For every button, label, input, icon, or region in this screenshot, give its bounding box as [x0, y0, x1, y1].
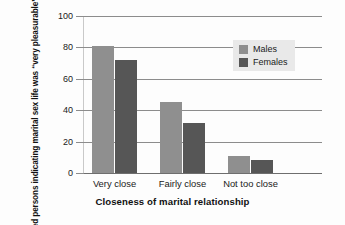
- females-swatch-icon: [239, 58, 248, 67]
- y-tick-0: [76, 173, 84, 174]
- legend-label-females: Females: [253, 57, 288, 67]
- y-tick-label-20: 20: [63, 137, 73, 147]
- legend: Males Females: [233, 40, 295, 71]
- y-tick-label-100: 100: [58, 11, 73, 21]
- y-axis-title-text: Married persons indicating marital sex l…: [32, 0, 43, 225]
- y-tick-100: [76, 16, 84, 17]
- y-tick-label-80: 80: [63, 42, 73, 52]
- y-tick-60: [76, 79, 84, 80]
- y-tick-20: [76, 142, 84, 143]
- gridline-100: [84, 16, 322, 17]
- bar-females-fairly-close: [183, 123, 205, 173]
- y-tick-label-0: 0: [68, 168, 73, 178]
- bar-males-very-close: [92, 46, 114, 173]
- males-swatch-icon: [239, 45, 248, 54]
- y-axis-line: [83, 16, 84, 173]
- legend-label-males: Males: [253, 44, 277, 54]
- gridline-0: [84, 173, 322, 174]
- bar-males-fairly-close: [160, 102, 182, 173]
- y-tick-80: [76, 47, 84, 48]
- y-tick-label-60: 60: [63, 74, 73, 84]
- y-tick-40: [76, 110, 84, 111]
- x-tick-label-very-close: Very close: [93, 178, 136, 189]
- y-axis-title: Married persons indicating marital sex l…: [8, 0, 66, 185]
- x-axis-title: Closeness of marital relationship: [0, 196, 345, 207]
- x-tick-label-fairly-close: Fairly close: [159, 178, 206, 189]
- bar-chart: Married persons indicating marital sex l…: [0, 0, 345, 225]
- bar-females-not-too-close: [251, 160, 273, 173]
- x-tick-label-not-too-close: Not too close: [223, 178, 278, 189]
- bar-females-very-close: [115, 60, 137, 173]
- y-tick-label-40: 40: [63, 105, 73, 115]
- legend-item-males: Males: [239, 44, 288, 54]
- bar-males-not-too-close: [228, 156, 250, 173]
- legend-item-females: Females: [239, 57, 288, 67]
